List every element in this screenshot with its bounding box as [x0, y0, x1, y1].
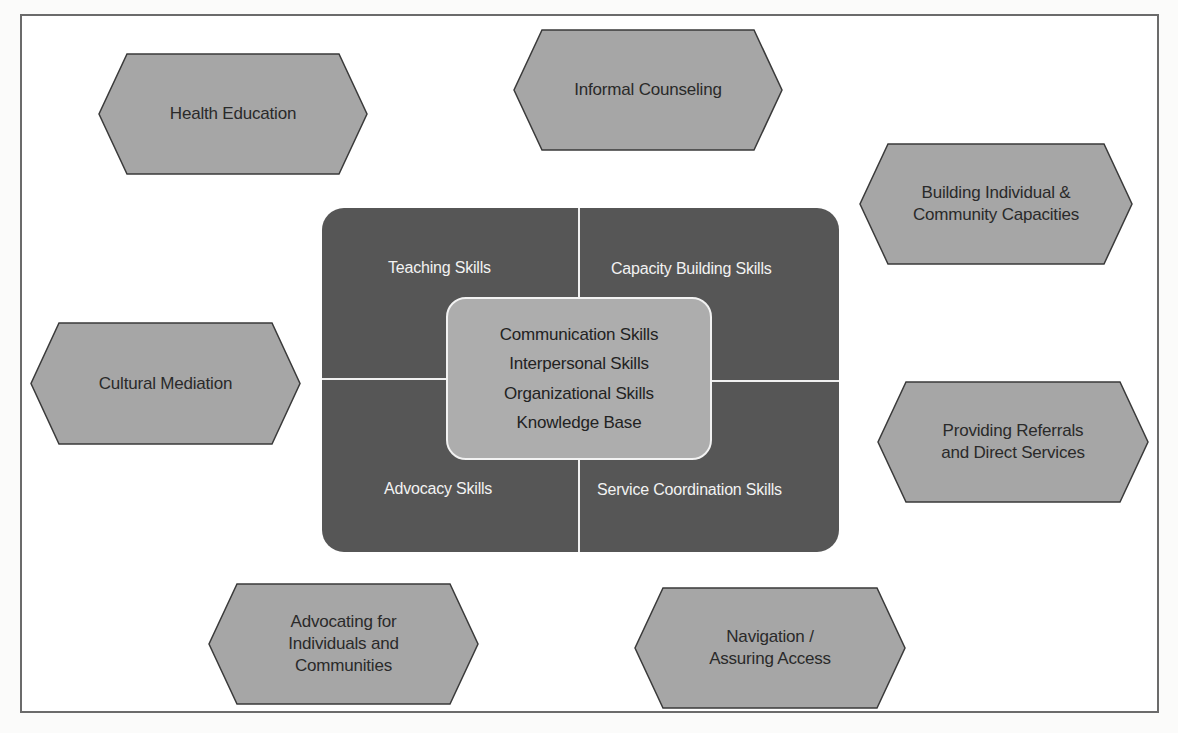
competency-communication: Communication Skills — [500, 320, 659, 350]
role-label: Cultural Mediation — [30, 322, 301, 445]
role-label: Informal Counseling — [513, 29, 783, 151]
hexagon-health-education: Health Education — [98, 53, 368, 175]
role-label: Building Individual & Community Capaciti… — [859, 143, 1133, 265]
quadrant-capacity-building-skills: Capacity Building Skills — [611, 260, 772, 278]
role-label: Advocating for Individuals and Communiti… — [208, 583, 479, 705]
competency-organizational: Organizational Skills — [504, 379, 654, 409]
competency-knowledge-base: Knowledge Base — [517, 408, 642, 438]
center-core-competencies: Communication Skills Interpersonal Skill… — [446, 297, 712, 460]
quadrant-divider-left — [322, 378, 452, 380]
quadrant-teaching-skills: Teaching Skills — [388, 259, 491, 277]
role-label: Navigation / Assuring Access — [634, 587, 906, 709]
quadrant-advocacy-skills: Advocacy Skills — [384, 480, 492, 498]
hexagon-informal-counseling: Informal Counseling — [513, 29, 783, 151]
hexagon-providing-referrals: Providing Referrals and Direct Services — [877, 381, 1149, 503]
quadrant-divider-right — [712, 380, 839, 382]
hexagon-navigation: Navigation / Assuring Access — [634, 587, 906, 709]
hexagon-cultural-mediation: Cultural Mediation — [30, 322, 301, 445]
hexagon-building-capacities: Building Individual & Community Capaciti… — [859, 143, 1133, 265]
role-label: Health Education — [98, 53, 368, 175]
competency-interpersonal: Interpersonal Skills — [509, 349, 649, 379]
hexagon-advocating: Advocating for Individuals and Communiti… — [208, 583, 479, 705]
role-label: Providing Referrals and Direct Services — [877, 381, 1149, 503]
quadrant-service-coordination-skills: Service Coordination Skills — [597, 481, 782, 499]
